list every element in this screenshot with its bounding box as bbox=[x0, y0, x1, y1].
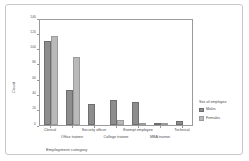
bar-group bbox=[132, 20, 145, 125]
bar-group bbox=[176, 20, 189, 125]
y-axis-tick-label: 0 bbox=[34, 123, 36, 126]
bar-group bbox=[66, 20, 79, 125]
x-axis-title: Employment category bbox=[46, 147, 88, 152]
bar-group bbox=[88, 20, 101, 125]
y-axis-tick-label: 80 bbox=[32, 61, 36, 64]
bars-layer bbox=[40, 20, 192, 125]
legend: Sex of employee MalesFemales bbox=[199, 100, 247, 125]
x-axis-tick-mark bbox=[72, 126, 73, 128]
y-axis-tick-label: 40 bbox=[32, 92, 36, 95]
bar bbox=[132, 102, 139, 125]
x-axis-tick-mark bbox=[160, 126, 161, 128]
bar-group bbox=[110, 20, 123, 125]
y-axis-tick-label: 20 bbox=[32, 107, 36, 110]
bar bbox=[139, 123, 146, 125]
legend-item-label: Males bbox=[206, 108, 216, 112]
bar bbox=[161, 123, 168, 125]
legend-item-label: Females bbox=[206, 117, 220, 121]
x-axis-tick-mark bbox=[116, 126, 117, 128]
bar-group bbox=[154, 20, 167, 125]
bar bbox=[154, 123, 161, 125]
y-axis: 020406080100120140 bbox=[6, 19, 39, 126]
y-axis-tick-label: 60 bbox=[32, 77, 36, 80]
bar bbox=[44, 41, 51, 125]
bar bbox=[66, 90, 73, 125]
bar bbox=[51, 36, 58, 125]
legend-entries: MalesFemales bbox=[199, 108, 247, 122]
y-axis-tick-label: 120 bbox=[30, 31, 36, 34]
bar bbox=[117, 120, 124, 125]
chart-container: Count 020406080100120140 ClericalOffice … bbox=[5, 4, 243, 155]
y-axis-tick-label: 140 bbox=[30, 16, 36, 19]
y-axis-tick-label: 100 bbox=[30, 46, 36, 49]
x-axis-tick-label: Clerical bbox=[44, 129, 56, 133]
x-axis-tick-label: Office trainee bbox=[61, 136, 83, 140]
bar bbox=[110, 100, 117, 125]
legend-swatch-icon bbox=[199, 116, 204, 120]
x-axis-tick-label: MBA trainee bbox=[150, 136, 170, 140]
plot-area bbox=[39, 19, 193, 126]
x-axis-labels: ClericalOffice traineeSecurity officerCo… bbox=[39, 126, 193, 144]
legend-item[interactable]: Males bbox=[199, 108, 247, 113]
x-axis-tick-label: Security officer bbox=[82, 129, 106, 133]
x-axis-tick-label: Exempt employee bbox=[123, 129, 153, 133]
legend-item[interactable]: Females bbox=[199, 116, 247, 121]
legend-title: Sex of employee bbox=[199, 100, 247, 104]
x-axis-tick-label: Technical bbox=[174, 129, 189, 133]
bar bbox=[176, 121, 183, 125]
bar bbox=[88, 104, 95, 125]
bar-group bbox=[44, 20, 57, 125]
bar bbox=[73, 57, 80, 125]
x-axis-tick-label: College trainee bbox=[104, 136, 129, 140]
legend-swatch-icon bbox=[199, 108, 204, 112]
